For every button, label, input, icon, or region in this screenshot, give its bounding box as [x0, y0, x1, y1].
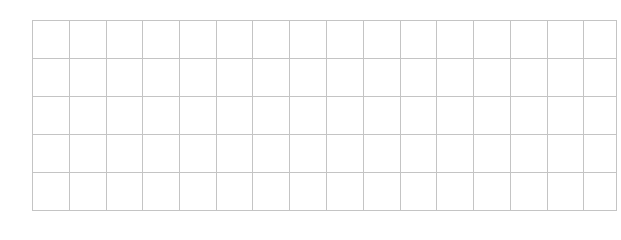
grid-cell: [290, 135, 327, 173]
grid-cell: [70, 97, 107, 135]
grid-cell: [364, 21, 401, 59]
grid-cell: [107, 21, 143, 59]
grid-cell: [217, 97, 253, 135]
grid-cell: [327, 135, 364, 173]
grid-cell: [143, 135, 180, 173]
grid-cell: [364, 97, 401, 135]
grid-cell: [290, 59, 327, 97]
grid-cell: [584, 97, 617, 135]
grid-cell: [33, 97, 70, 135]
grid-cell: [437, 97, 474, 135]
grid-cell: [511, 135, 548, 173]
grid-cell: [180, 59, 217, 97]
grid-cell: [143, 21, 180, 59]
grid-cell: [548, 59, 584, 97]
grid-cell: [217, 59, 253, 97]
grid-cell: [511, 97, 548, 135]
grid-cell: [584, 135, 617, 173]
grid-row: [33, 173, 617, 211]
grid-cell: [511, 21, 548, 59]
grid-cell: [290, 21, 327, 59]
grid-cell: [253, 59, 290, 97]
grid-cell: [401, 173, 437, 211]
grid-cell: [437, 59, 474, 97]
grid-cell: [437, 21, 474, 59]
grid-cell: [584, 173, 617, 211]
grid-cell: [511, 173, 548, 211]
grid-cell: [401, 21, 437, 59]
grid-cell: [143, 59, 180, 97]
grid-cell: [290, 173, 327, 211]
empty-grid: [32, 20, 616, 210]
grid-cell: [107, 59, 143, 97]
grid-row: [33, 135, 617, 173]
grid-cell: [33, 59, 70, 97]
grid-row: [33, 97, 617, 135]
grid-cell: [548, 173, 584, 211]
grid-cell: [511, 59, 548, 97]
grid-cell: [401, 59, 437, 97]
grid-cell: [327, 97, 364, 135]
grid-cell: [584, 21, 617, 59]
grid-cell: [474, 59, 511, 97]
grid-cell: [217, 21, 253, 59]
grid-cell: [437, 135, 474, 173]
grid-row: [33, 59, 617, 97]
grid-cell: [217, 173, 253, 211]
grid-cell: [33, 173, 70, 211]
grid-cell: [180, 173, 217, 211]
grid-cell: [327, 173, 364, 211]
grid-cell: [401, 97, 437, 135]
grid-cell: [180, 97, 217, 135]
grid-cell: [474, 173, 511, 211]
grid-cell: [474, 97, 511, 135]
grid-cell: [437, 173, 474, 211]
grid-cell: [548, 97, 584, 135]
grid-cell: [548, 135, 584, 173]
grid-cell: [107, 173, 143, 211]
grid-cell: [327, 59, 364, 97]
grid-cell: [327, 21, 364, 59]
grid-cell: [107, 135, 143, 173]
grid-table: [32, 20, 617, 211]
grid-cell: [70, 59, 107, 97]
grid-cell: [180, 135, 217, 173]
grid-cell: [143, 173, 180, 211]
grid-cell: [364, 59, 401, 97]
grid-cell: [290, 97, 327, 135]
grid-row: [33, 21, 617, 59]
grid-cell: [180, 21, 217, 59]
grid-cell: [107, 97, 143, 135]
grid-cell: [253, 135, 290, 173]
grid-cell: [253, 173, 290, 211]
grid-cell: [364, 135, 401, 173]
grid-cell: [253, 21, 290, 59]
grid-cell: [143, 97, 180, 135]
grid-cell: [584, 59, 617, 97]
grid-cell: [33, 21, 70, 59]
grid-cell: [474, 135, 511, 173]
grid-cell: [364, 173, 401, 211]
grid-cell: [70, 21, 107, 59]
grid-cell: [474, 21, 511, 59]
grid-cell: [253, 97, 290, 135]
grid-cell: [70, 135, 107, 173]
grid-cell: [33, 135, 70, 173]
grid-cell: [548, 21, 584, 59]
grid-cell: [401, 135, 437, 173]
grid-cell: [217, 135, 253, 173]
grid-cell: [70, 173, 107, 211]
